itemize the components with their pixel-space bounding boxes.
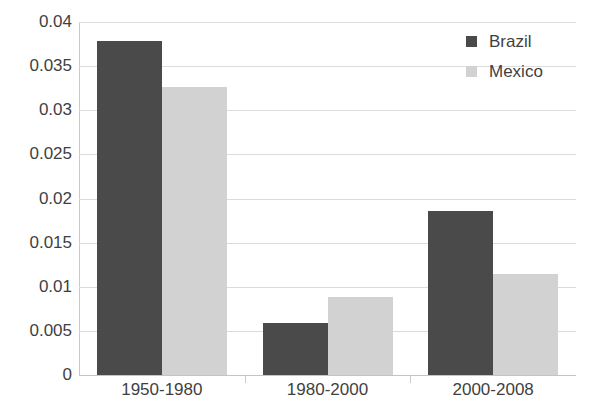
x-axis-tick-mark <box>410 376 411 383</box>
y-axis-tick-label: 0.04 <box>0 13 72 30</box>
legend-swatch-icon <box>466 66 477 77</box>
y-axis-tick-label: 0.025 <box>0 145 72 162</box>
y-axis-tick-labels: 0.040.0350.030.0250.020.0150.010.0050 <box>0 22 72 375</box>
gridline <box>79 375 576 376</box>
chart-legend: BrazilMexico <box>466 26 586 86</box>
bar-group <box>97 22 227 375</box>
bar-group <box>263 22 393 375</box>
y-axis-tick-label: 0.03 <box>0 101 72 118</box>
bar-brazil[interactable] <box>428 211 493 375</box>
y-axis-tick-label: 0.005 <box>0 322 72 339</box>
legend-item-brazil[interactable]: Brazil <box>466 26 586 56</box>
x-axis-tick-mark <box>245 376 246 383</box>
x-axis-tick-label: 1950-1980 <box>79 380 245 400</box>
bar-mexico[interactable] <box>162 87 227 375</box>
x-axis-tick-label: 1980-2000 <box>245 380 411 400</box>
y-axis-tick-label: 0.035 <box>0 57 72 74</box>
x-axis-tick-labels: 1950-19801980-20002000-2008 <box>79 380 576 404</box>
bar-brazil[interactable] <box>263 323 328 375</box>
legend-item-label: Mexico <box>489 63 543 80</box>
y-axis-tick-label: 0.01 <box>0 278 72 295</box>
y-axis-tick-label: 0.015 <box>0 234 72 251</box>
y-axis-tick-label: 0.02 <box>0 190 72 207</box>
bar-brazil[interactable] <box>97 41 162 375</box>
x-axis-tick-label: 2000-2008 <box>410 380 576 400</box>
legend-item-mexico[interactable]: Mexico <box>466 56 586 86</box>
legend-item-label: Brazil <box>489 33 532 50</box>
y-axis-tick-label: 0 <box>0 366 72 383</box>
chart-title <box>0 0 594 5</box>
bar-mexico[interactable] <box>493 274 558 375</box>
legend-swatch-icon <box>466 36 477 47</box>
bar-mexico[interactable] <box>328 297 393 375</box>
bar-chart: 0.040.0350.030.0250.020.0150.010.0050 19… <box>0 0 594 406</box>
